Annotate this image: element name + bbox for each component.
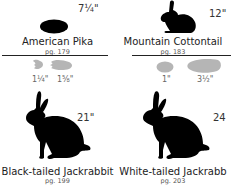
black-tailed-jackrabbit-page: pg. 199 xyxy=(0,177,115,185)
cottontail-hind-track-icon xyxy=(186,58,222,74)
pika-hind-track-icon xyxy=(49,59,73,71)
pika-front-track-size: 1¼" xyxy=(32,75,49,84)
black-tailed-jackrabbit-name: Black-tailed Jackrabbit xyxy=(0,166,115,177)
divider-right xyxy=(132,55,231,56)
white-tailed-jackrabbit-silhouette-icon xyxy=(133,90,213,162)
black-tailed-jackrabbit-size: 21" xyxy=(77,112,94,123)
pika-size: 7¼" xyxy=(78,3,99,14)
species-card-black-tailed-jackrabbit: 21" Black-tailed Jackrabbit pg. 199 xyxy=(0,90,115,185)
pika-silhouette-icon xyxy=(38,18,70,34)
cottontail-hind-track-size: 3½" xyxy=(197,75,214,84)
cottontail-size: 12" xyxy=(209,8,226,19)
cottontail-silhouette-icon xyxy=(158,0,198,34)
white-tailed-jackrabbit-name: White-tailed Jackrabb xyxy=(115,166,231,177)
cottontail-front-track-icon xyxy=(156,61,174,73)
pika-hind-track-size: 1⅝" xyxy=(57,75,74,84)
white-tailed-jackrabbit-page: pg. 203 xyxy=(115,177,231,185)
divider-left xyxy=(2,55,108,56)
black-tailed-jackrabbit-silhouette-icon xyxy=(14,90,94,162)
cottontail-name: Mountain Cottontail xyxy=(115,36,231,47)
white-tailed-jackrabbit-size: 24 xyxy=(213,112,226,123)
species-card-mountain-cottontail: 12" Mountain Cottontail pg. 183 xyxy=(115,0,231,55)
cottontail-front-track-size: 1" xyxy=(162,75,171,84)
pika-name: American Pika xyxy=(0,36,115,47)
species-card-american-pika: 7¼" American Pika pg. 179 xyxy=(0,0,115,55)
pika-front-track-icon xyxy=(32,59,44,70)
species-card-white-tailed-jackrabbit: 24 White-tailed Jackrabb pg. 203 xyxy=(115,90,231,185)
